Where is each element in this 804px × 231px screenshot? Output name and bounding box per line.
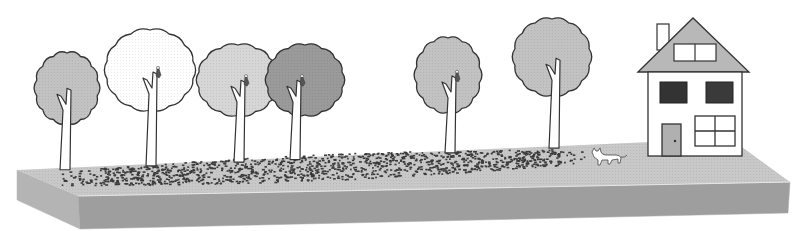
tree-4 — [265, 44, 345, 160]
attic-window — [674, 44, 716, 61]
lower-window — [695, 116, 735, 146]
upper-window-left — [660, 82, 687, 103]
tree-2 — [104, 29, 195, 166]
tree-trunk — [231, 80, 245, 162]
upper-window-right — [706, 82, 733, 103]
tree-row — [34, 18, 592, 170]
door-knob — [674, 140, 676, 142]
tree-5 — [414, 37, 482, 153]
street-diagram — [0, 0, 804, 231]
door — [662, 124, 681, 156]
tree-trunk — [57, 88, 71, 169]
tree-trunk — [287, 80, 301, 159]
tree-3 — [196, 44, 280, 162]
street-scene-svg — [0, 0, 804, 231]
house — [638, 18, 749, 156]
tree-6 — [512, 18, 592, 148]
tree-1 — [34, 52, 100, 170]
